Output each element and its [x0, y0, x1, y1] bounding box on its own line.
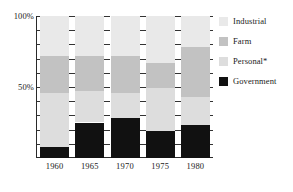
bar-segment-farm[interactable] — [111, 56, 140, 93]
x-tick-label: 1975 — [140, 162, 180, 171]
bar-stack — [111, 16, 140, 158]
bar-group-1960[interactable] — [40, 16, 69, 158]
bar-segment-industrial[interactable] — [75, 16, 104, 56]
bar-segment-government[interactable] — [111, 118, 140, 158]
bar-stack — [181, 16, 210, 158]
x-tick-label: 1980 — [175, 162, 215, 171]
bar-segment-industrial[interactable] — [181, 16, 210, 47]
x-axis: 19601965197019751980 — [37, 162, 213, 182]
legend-swatch-icon — [219, 77, 228, 86]
legend-swatch-icon — [219, 37, 228, 46]
bar-segment-personal[interactable] — [40, 93, 69, 147]
stacked-bar-chart: 100%50% 19601965197019751980 IndustrialF… — [0, 0, 293, 192]
bar-stack — [40, 16, 69, 158]
bar-segment-industrial[interactable] — [111, 16, 140, 56]
bar-segment-industrial[interactable] — [40, 16, 69, 56]
bar-segment-personal[interactable] — [146, 88, 175, 131]
legend-swatch-icon — [219, 17, 228, 26]
y-axis: 100%50% — [0, 0, 34, 192]
legend-swatch-icon — [219, 57, 228, 66]
chart-legend: IndustrialFarmPersonal*Government — [219, 11, 293, 91]
plot-area — [37, 16, 213, 158]
bar-group-1970[interactable] — [111, 16, 140, 158]
bar-stack — [75, 16, 104, 158]
y-tick-label: 50% — [18, 83, 34, 92]
bar-segment-farm[interactable] — [181, 47, 210, 97]
bar-segment-government[interactable] — [75, 123, 104, 159]
bar-segment-personal[interactable] — [75, 91, 104, 122]
bar-group-1980[interactable] — [181, 16, 210, 158]
bar-stack — [146, 16, 175, 158]
x-tick-label: 1965 — [70, 162, 110, 171]
legend-label: Farm — [233, 37, 251, 46]
legend-label: Personal* — [233, 57, 267, 66]
bar-segment-farm[interactable] — [146, 63, 175, 89]
y-tick-label: 100% — [14, 12, 34, 21]
bar-segment-government[interactable] — [40, 147, 69, 158]
bar-group-1975[interactable] — [146, 16, 175, 158]
x-tick-label: 1960 — [35, 162, 75, 171]
bar-segment-government[interactable] — [146, 131, 175, 158]
legend-item-farm[interactable]: Farm — [219, 31, 293, 51]
bar-segment-personal[interactable] — [111, 93, 140, 119]
legend-item-personal[interactable]: Personal* — [219, 51, 293, 71]
bar-segment-industrial[interactable] — [146, 16, 175, 63]
bar-segment-personal[interactable] — [181, 97, 210, 125]
bar-segment-farm[interactable] — [40, 56, 69, 93]
x-tick-label: 1970 — [105, 162, 145, 171]
bar-segment-farm[interactable] — [75, 56, 104, 92]
legend-item-government[interactable]: Government — [219, 71, 293, 91]
legend-item-industrial[interactable]: Industrial — [219, 11, 293, 31]
bar-segment-government[interactable] — [181, 125, 210, 158]
legend-label: Industrial — [233, 17, 267, 26]
bar-group-1965[interactable] — [75, 16, 104, 158]
legend-label: Government — [233, 77, 277, 86]
